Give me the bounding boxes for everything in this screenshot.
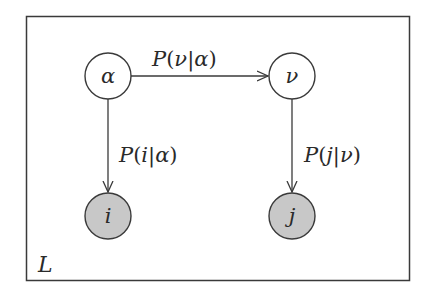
node-nu-label: ν <box>286 64 299 88</box>
plate-label: L <box>37 252 53 277</box>
node-i-observed: i <box>85 193 131 239</box>
node-alpha-label: α <box>101 64 115 88</box>
node-nu: ν <box>269 53 315 99</box>
node-i-label: i <box>105 204 112 228</box>
node-j-observed: j <box>269 193 315 239</box>
edge-label-j-given-nu: P(j|ν) <box>303 143 361 168</box>
graphical-model-diagram: L P(ν|α) P(i|α) P(j|ν) α ν i j <box>0 0 428 293</box>
node-alpha: α <box>85 53 131 99</box>
edge-label-i-given-alpha: P(i|α) <box>118 143 178 168</box>
edge-label-nu-given-alpha: P(ν|α) <box>151 47 217 72</box>
